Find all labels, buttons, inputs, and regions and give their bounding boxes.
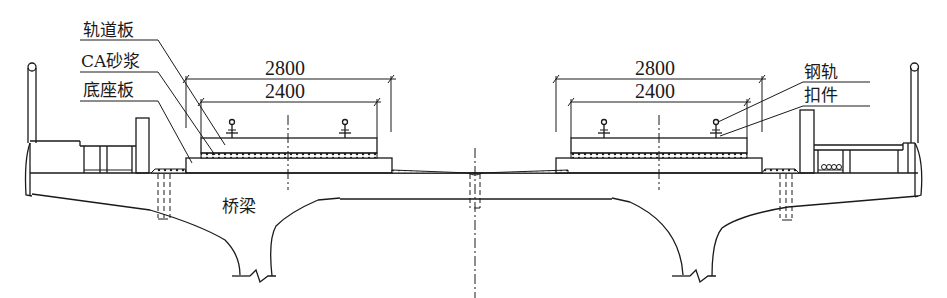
label-bridge-girder: 桥梁 — [222, 196, 256, 216]
label-ca-mortar: CA砂浆 — [81, 51, 140, 71]
rail-icon — [226, 120, 238, 139]
label-base-plate: 底座板 — [83, 80, 134, 100]
left-handrail — [28, 63, 36, 143]
rail-icon — [598, 120, 610, 139]
right-handrail — [911, 63, 919, 143]
left-dimension-2800: 2800 — [265, 57, 305, 79]
right-dimension-2800: 2800 — [635, 57, 675, 79]
right-dimension-2400: 2400 — [635, 80, 675, 102]
left-ca-mortar — [201, 153, 377, 158]
right-leader-lines — [718, 82, 870, 136]
left-cable-trough — [30, 118, 149, 173]
right-cable-trough — [800, 110, 915, 173]
center-drain — [392, 148, 568, 298]
label-fastener: 扣件 — [804, 85, 838, 105]
label-rail: 钢轨 — [804, 62, 838, 82]
left-dimension-2400: 2400 — [265, 80, 305, 102]
bridge-cross-section-diagram: 2800 2400 轨道板 CA砂浆 底座板 桥梁 — [0, 0, 947, 298]
left-base-plate — [186, 158, 392, 173]
left-track-slab — [201, 138, 377, 153]
rail-icon — [339, 120, 351, 139]
label-track-slab: 轨道板 — [83, 20, 134, 40]
right-drain — [762, 169, 799, 220]
rail-icon — [710, 120, 722, 139]
bridge-girder — [26, 143, 922, 282]
left-track-structure — [186, 115, 392, 190]
right-track-structure — [556, 115, 762, 190]
